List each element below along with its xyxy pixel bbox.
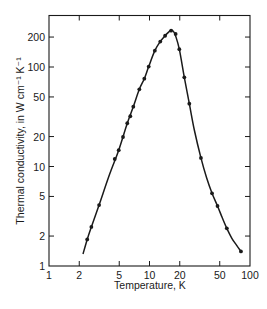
y-tick-label: 5 — [39, 190, 45, 202]
fit-curve — [83, 30, 241, 254]
plot-frame — [49, 16, 250, 267]
data-point — [158, 40, 162, 44]
data-point — [85, 238, 89, 242]
data-point — [182, 75, 186, 79]
data-point — [113, 157, 117, 161]
x-tick-label: 100 — [241, 269, 259, 281]
data-point — [121, 135, 125, 139]
y-tick-label: 1 — [39, 260, 45, 272]
data-point — [169, 29, 173, 33]
data-point — [142, 77, 146, 81]
data-point — [137, 87, 141, 91]
x-tick-label: 1 — [46, 269, 52, 281]
data-point — [131, 105, 135, 109]
data-point — [97, 203, 101, 207]
y-tick-labels: 125102050100200 — [27, 31, 45, 272]
data-point — [177, 47, 181, 51]
y-tick-label: 2 — [39, 230, 45, 242]
data-point — [125, 121, 129, 125]
data-point — [128, 114, 132, 118]
x-tick-label: 50 — [214, 269, 226, 281]
data-point — [210, 191, 214, 195]
axis-ticks — [49, 16, 250, 267]
data-point — [225, 226, 229, 230]
y-axis-label: Thermal conductivity, in W cm⁻¹ K⁻¹ — [14, 57, 26, 225]
data-point — [216, 204, 220, 208]
plot-border — [49, 16, 250, 267]
y-tick-label: 200 — [27, 31, 45, 43]
data-point — [163, 34, 167, 38]
data-point — [174, 32, 178, 36]
y-tick-label: 50 — [33, 91, 45, 103]
data-point — [117, 148, 121, 152]
x-tick-label: 2 — [76, 269, 82, 281]
y-tick-label: 20 — [33, 131, 45, 143]
data-point — [153, 49, 157, 53]
thermal-conductivity-chart: 125102050100 125102050100200 Temperature… — [0, 0, 267, 309]
x-axis-label: Temperature, K — [114, 279, 186, 291]
data-markers — [85, 29, 243, 254]
y-tick-label: 100 — [27, 61, 45, 73]
y-tick-label: 10 — [33, 161, 45, 173]
data-point — [187, 102, 191, 106]
data-point — [147, 65, 151, 69]
data-point — [239, 250, 243, 254]
data-point — [89, 225, 93, 229]
data-point — [199, 156, 203, 160]
